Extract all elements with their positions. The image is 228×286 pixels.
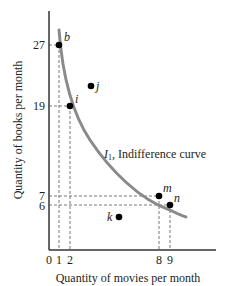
point-m [156, 193, 163, 200]
point-k [116, 214, 123, 221]
x-tick-0: 0 [46, 253, 52, 267]
point-i [67, 103, 74, 110]
label-j: j [94, 79, 100, 93]
point-n [167, 202, 174, 209]
label-m: m [163, 181, 172, 195]
x-tick-1: 1 [56, 253, 62, 267]
label-n: n [174, 191, 180, 205]
label-k: k [107, 210, 113, 224]
indifference-chart: b i j m n k I1, Indifference curve 27 19… [0, 0, 228, 286]
point-b [56, 42, 63, 49]
y-tick-6: 6 [39, 199, 45, 213]
x-tick-9: 9 [167, 253, 173, 267]
curve-label: I1, Indifference curve [103, 147, 206, 162]
x-axis-label: Quantity of movies per month [56, 271, 201, 285]
data-points [56, 42, 174, 221]
point-j [88, 83, 95, 90]
y-axis-label: Quantity of books per month [11, 61, 25, 200]
y-tick-27: 27 [33, 38, 45, 52]
label-i: i [75, 92, 78, 106]
label-b: b [64, 30, 70, 44]
y-tick-19: 19 [33, 99, 45, 113]
x-tick-8: 8 [156, 253, 162, 267]
x-tick-2: 2 [67, 253, 73, 267]
